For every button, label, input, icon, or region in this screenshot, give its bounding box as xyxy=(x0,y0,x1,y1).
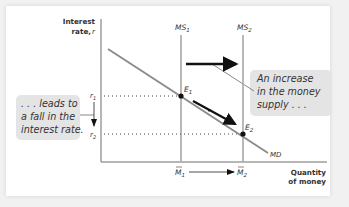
callout-right-line1: An increase xyxy=(256,73,313,84)
m2-tick-label: M2 xyxy=(237,168,247,178)
money-market-chart: An increase in the money supply . . . . … xyxy=(0,0,349,207)
e1-label: E1 xyxy=(184,85,192,95)
r2-tick-label: r2 xyxy=(90,131,96,140)
y-axis-title-line1: Interest xyxy=(63,17,96,26)
x-axis-title-line1: Quantity xyxy=(291,168,327,177)
callout-right-line3: supply . . . xyxy=(257,99,307,110)
e1-point xyxy=(178,93,183,98)
ms1-label: MS1 xyxy=(175,23,190,33)
callout-right-line2: in the money xyxy=(257,86,321,97)
md-label: MD xyxy=(270,151,282,159)
r1-tick-label: r1 xyxy=(90,92,96,101)
ms2-label: MS2 xyxy=(237,23,252,33)
callout-money-supply: An increase in the money supply . . . xyxy=(250,70,332,116)
callout-left-line2: a fall in the xyxy=(21,111,75,122)
y-axis-variable: r xyxy=(92,27,96,36)
callout-left-line3: interest rate. xyxy=(21,124,84,135)
e2-point xyxy=(240,131,245,136)
x-axis-title-line2: of money xyxy=(288,177,326,186)
callout-right-leader xyxy=(212,64,254,91)
callout-left-line1: . . . leads to xyxy=(21,98,78,109)
y-axis-title-line2: rate, xyxy=(72,27,91,36)
movement-arrow xyxy=(193,101,235,124)
e2-label: E2 xyxy=(245,123,254,133)
callout-interest-rate: . . . leads to a fall in the interest ra… xyxy=(16,95,84,140)
m1-tick-label: M1 xyxy=(175,168,185,178)
